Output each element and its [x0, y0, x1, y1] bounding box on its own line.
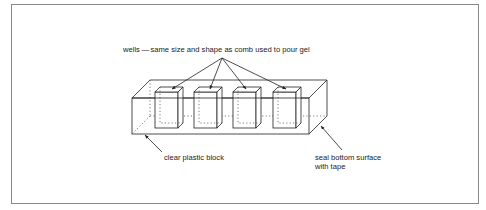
well-3 [233, 87, 261, 128]
wells-arrows [172, 58, 286, 89]
wells-label: wells — same size and shape as comb used… [123, 45, 310, 54]
seal-label-line2: with tape [315, 162, 381, 171]
well-4 [273, 87, 301, 128]
seal-arrow [321, 126, 342, 150]
block-label: clear plastic block [164, 153, 224, 162]
seal-label: seal bottom surface with tape [315, 153, 381, 171]
plastic-block-diagram [0, 0, 486, 210]
seal-label-line1: seal bottom surface [315, 153, 381, 162]
well-1 [155, 87, 183, 128]
well-2 [194, 87, 222, 128]
block-arrow [145, 135, 162, 152]
